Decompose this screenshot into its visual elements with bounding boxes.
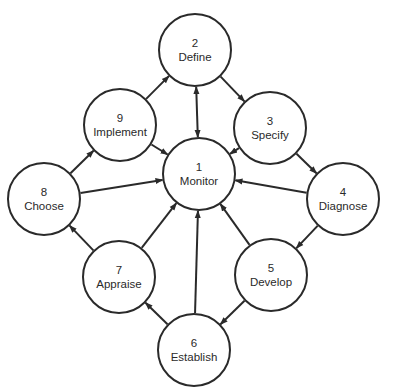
- node-appraise: 7 Appraise: [82, 240, 156, 314]
- node-label: Specify: [251, 128, 289, 142]
- node-implement: 9 Implement: [83, 88, 157, 162]
- arrow-5-to-1: [220, 204, 249, 245]
- arrow-4-to-1: [235, 180, 306, 192]
- arrow-4-to-5: [296, 226, 317, 248]
- node-diagnose: 4 Diagnose: [306, 162, 380, 236]
- arrow-3-to-4: [297, 154, 317, 173]
- arrow-5-to-6: [221, 301, 245, 324]
- node-specify: 3 Specify: [233, 91, 307, 165]
- arrow-8-to-1: [81, 180, 163, 193]
- node-number: 2: [192, 36, 198, 50]
- arrow-3-to-1: [230, 148, 239, 154]
- node-number: 5: [268, 261, 274, 275]
- node-number: 7: [116, 263, 122, 277]
- node-label: Develop: [250, 275, 292, 289]
- node-number: 4: [340, 185, 346, 199]
- arrow-2-to-3: [221, 77, 245, 102]
- node-establish: 6 Establish: [157, 313, 231, 387]
- node-label: Appraise: [96, 277, 141, 291]
- node-label: Diagnose: [319, 199, 368, 213]
- node-choose: 8 Choose: [7, 162, 81, 236]
- arrow-6-to-7: [146, 303, 168, 324]
- node-number: 6: [191, 336, 197, 350]
- node-develop: 5 Develop: [234, 238, 308, 312]
- node-number: 8: [41, 185, 47, 199]
- node-label: Implement: [93, 125, 147, 139]
- arrow-8-to-9: [71, 151, 94, 173]
- arrow-2-to-1: [196, 87, 198, 137]
- arrow-7-to-8: [70, 226, 94, 251]
- node-number: 1: [196, 160, 202, 174]
- node-number: 9: [117, 111, 123, 125]
- node-monitor: 1 Monitor: [162, 137, 236, 211]
- node-number: 3: [267, 114, 273, 128]
- node-label: Choose: [24, 199, 64, 213]
- node-label: Monitor: [180, 174, 218, 188]
- node-label: Establish: [171, 350, 218, 364]
- arrow-7-to-1: [142, 203, 177, 248]
- node-label: Define: [178, 50, 211, 64]
- arrow-9-to-1: [151, 145, 167, 155]
- node-define: 2 Define: [158, 13, 232, 87]
- arrow-6-to-1: [195, 211, 198, 313]
- process-cycle-diagram: 1 Monitor 2 Define 3 Specify 4 Diagnose …: [0, 0, 393, 390]
- arrow-9-to-2: [146, 76, 169, 99]
